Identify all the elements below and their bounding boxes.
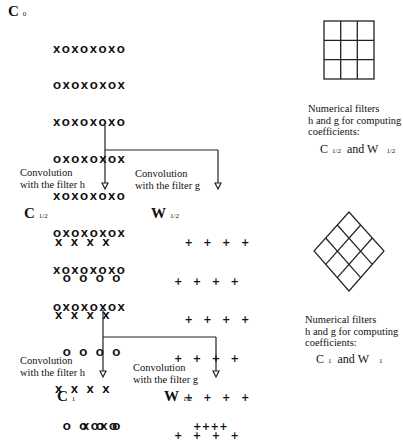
grid-row: X X X X <box>55 237 121 249</box>
caption-line: with the filter g <box>135 180 200 192</box>
square-filter-grid <box>324 21 374 79</box>
grid-row: X X X X <box>55 310 121 322</box>
filter-coef-1: C1/2and W1/2 <box>320 142 401 157</box>
coef-w-sub: 1 <box>379 357 383 365</box>
c-half-label: C1/2 <box>24 205 48 222</box>
diamond-filter-grid <box>314 212 384 291</box>
note-line: coefficients: <box>305 337 398 349</box>
coef-c: C <box>320 142 328 156</box>
c-half-subscript: 1/2 <box>39 212 48 220</box>
c-half-letter: C <box>24 205 35 221</box>
grid-row: XOXOXOXO <box>53 117 127 129</box>
grid-row: XOXOXOXO <box>53 44 127 56</box>
convolution-h-label-2: Convolution with the filter h <box>20 355 85 378</box>
note-line: coefficients: <box>308 126 401 138</box>
w1-label: W1/2 <box>164 388 192 405</box>
grid-row: + + + + <box>174 276 249 289</box>
filter-note-1: Numerical filters h and g for computing … <box>308 103 401 138</box>
grid-row: XOXO <box>82 421 119 433</box>
caption-line: with the filter g <box>133 374 198 386</box>
w1-grid: ++++ ++++ ++++ ++++ <box>193 396 228 441</box>
grid-row: OXOXOXOX <box>53 154 127 166</box>
coef-and-w: and W <box>338 352 369 366</box>
c0-label: C0 <box>8 3 26 20</box>
caption-line: with the filter h <box>20 367 85 379</box>
w-half-letter: W <box>151 205 166 221</box>
grid-row: XOXOXOXO <box>53 191 127 203</box>
filter-coef-2: C1and W1 <box>316 352 388 367</box>
coef-and-w: and W <box>347 142 378 156</box>
note-line: h and g for computing <box>305 326 398 338</box>
caption-line: Convolution <box>20 167 85 179</box>
convolution-h-label-1: Convolution with the filter h <box>20 167 85 190</box>
c1-grid: XOXO OXOX XOXO OXOX <box>82 396 119 441</box>
caption-line: Convolution <box>135 168 200 180</box>
caption-line: Convolution <box>20 355 85 367</box>
grid-row: + + + + <box>174 314 249 327</box>
c0-subscript: 0 <box>23 10 27 18</box>
coef-c-sub: 1 <box>328 357 332 365</box>
note-line: Numerical filters <box>308 103 401 115</box>
grid-row: OXOXOXOX <box>53 80 127 92</box>
coef-w-sub: 1/2 <box>386 147 395 155</box>
note-line: h and g for computing <box>308 115 401 127</box>
note-line: Numerical filters <box>305 314 398 326</box>
convolution-g-label-1: Convolution with the filter g <box>135 168 200 191</box>
grid-row: O O O O <box>55 273 121 285</box>
c1-subscript: 1 <box>72 395 76 403</box>
caption-line: with the filter h <box>20 179 85 191</box>
w1-subscript: 1/2 <box>183 395 192 403</box>
grid-row: ++++ <box>193 421 228 433</box>
c0-letter: C <box>8 3 19 19</box>
coef-c-sub: 1/2 <box>332 147 341 155</box>
coef-c: C <box>316 352 324 366</box>
w1-letter: W <box>164 388 179 404</box>
c1-label: C1 <box>57 388 75 405</box>
convolution-g-label-2: Convolution with the filter g <box>133 362 198 385</box>
caption-line: Convolution <box>133 362 198 374</box>
filter-note-2: Numerical filters h and g for computing … <box>305 314 398 349</box>
c1-letter: C <box>57 388 68 404</box>
grid-row: + + + + <box>174 237 249 250</box>
